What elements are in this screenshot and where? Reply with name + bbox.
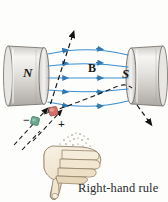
north-magnet-pole-face bbox=[39, 48, 49, 105]
north-pole-label: N bbox=[23, 65, 32, 81]
force-arrow-up bbox=[48, 34, 73, 112]
magnetic-field-lines bbox=[48, 50, 128, 107]
negative-charge-label: − bbox=[23, 113, 30, 128]
field-line-5 bbox=[48, 101, 128, 106]
positive-charge-label: + bbox=[58, 117, 65, 132]
field-line-1 bbox=[48, 50, 128, 55]
field-line-4 bbox=[48, 89, 128, 92]
physics-figure: N S B − + Right-hand rule bbox=[0, 0, 168, 202]
south-magnet bbox=[126, 46, 168, 106]
north-magnet-back-cap bbox=[4, 46, 13, 106]
right-hand-rule-caption: Right-hand rule bbox=[78, 181, 158, 196]
positive-charge-particle bbox=[48, 106, 58, 116]
figure-canvas bbox=[0, 0, 168, 202]
south-pole-label: S bbox=[122, 66, 129, 82]
thumb-nail bbox=[52, 193, 58, 198]
incoming-trajectories bbox=[14, 110, 60, 150]
magnetic-field-label: B bbox=[88, 61, 96, 76]
south-magnet-back-cap bbox=[159, 46, 168, 106]
negative-charge-particle bbox=[30, 116, 40, 126]
